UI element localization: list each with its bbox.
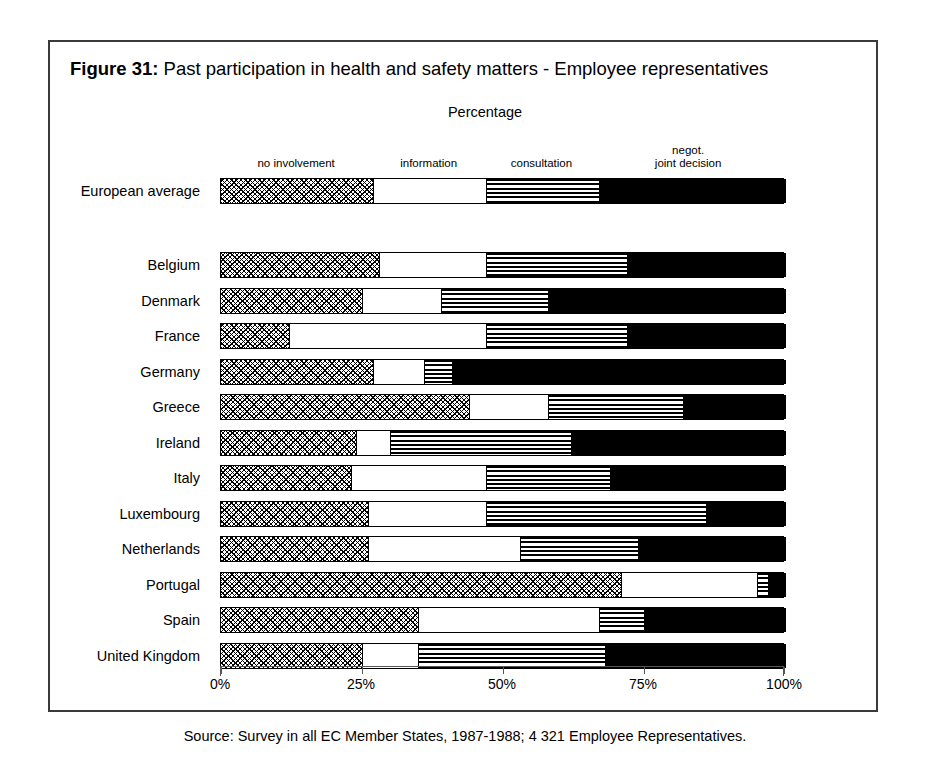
bar-segment-information (621, 573, 757, 597)
legend-item-label: consultation (511, 157, 572, 170)
segment-divider (768, 573, 769, 597)
bar-segment-consultation (486, 502, 707, 526)
bar-row: Belgium (50, 252, 880, 278)
bar-segment-no-involvement (221, 395, 469, 419)
segment-divider (610, 466, 611, 490)
bar-segment-information (379, 253, 487, 277)
bar-row: Italy (50, 465, 880, 491)
bar-segment-negot-joint-decision (638, 537, 786, 561)
stacked-bar (220, 607, 784, 633)
bar-segment-no-involvement (221, 253, 379, 277)
bar-segment-negot-joint-decision (644, 608, 786, 632)
segment-divider (289, 324, 290, 348)
segment-divider (452, 360, 453, 384)
bar-row-label: Portugal (50, 572, 210, 598)
stacked-bar (220, 536, 784, 562)
axis-tick (503, 667, 504, 674)
stacked-bar (220, 359, 784, 385)
bar-segment-no-involvement (221, 644, 362, 668)
segment-divider (548, 289, 549, 313)
segment-divider (638, 537, 639, 561)
bar-row: Netherlands (50, 536, 880, 562)
stacked-bar (220, 465, 784, 491)
bar-segment-no-involvement (221, 502, 368, 526)
bar-segment-information (373, 179, 487, 203)
segment-divider (418, 608, 419, 632)
legend-item-label: information (400, 157, 457, 170)
bar-segment-negot-joint-decision (452, 360, 786, 384)
bar-segment-consultation (486, 324, 628, 348)
segment-divider (469, 395, 470, 419)
bar-segment-information (373, 360, 425, 384)
bar-segment-negot-joint-decision (627, 324, 786, 348)
segment-divider (486, 466, 487, 490)
segment-divider (605, 644, 606, 668)
legend-item-consultation: consultation (511, 157, 572, 170)
segment-divider (351, 466, 352, 490)
stacked-bar (220, 430, 784, 456)
bar-segment-consultation (486, 179, 600, 203)
bar-segment-no-involvement (221, 360, 373, 384)
bar-segment-information (469, 395, 549, 419)
bar-segment-negot-joint-decision (768, 573, 786, 597)
segment-divider (373, 360, 374, 384)
bar-segment-no-involvement (221, 289, 362, 313)
segment-divider (486, 253, 487, 277)
segment-divider (362, 289, 363, 313)
segment-divider (356, 431, 357, 455)
legend-item-label: no involvement (257, 157, 334, 170)
axis-tick (784, 667, 785, 674)
bar-row: Germany (50, 359, 880, 385)
bar-segment-no-involvement (221, 537, 368, 561)
x-axis (220, 666, 784, 676)
axis-tick-label: 25% (347, 676, 375, 692)
segment-divider (520, 537, 521, 561)
segment-divider (368, 537, 369, 561)
segment-divider (368, 502, 369, 526)
bar-row-label: Spain (50, 607, 210, 633)
bar-segment-information (351, 466, 487, 490)
stacked-bar (220, 394, 784, 420)
bar-row-label: Greece (50, 394, 210, 420)
segment-divider (683, 395, 684, 419)
bar-segment-negot-joint-decision (706, 502, 786, 526)
bar-segment-negot-joint-decision (571, 431, 786, 455)
bar-row: Portugal (50, 572, 880, 598)
bar-row: Spain (50, 607, 880, 633)
stacked-bar (220, 323, 784, 349)
stacked-bar (220, 288, 784, 314)
bar-row-label: Luxembourg (50, 501, 210, 527)
bar-segment-no-involvement (221, 431, 356, 455)
bar-segment-information (368, 502, 487, 526)
bar-segment-no-involvement (221, 324, 289, 348)
legend-item-negot-joint-decision: negot.joint decision (655, 144, 721, 170)
bar-row: Ireland (50, 430, 880, 456)
stacked-bar (220, 501, 784, 527)
bar-segment-no-involvement (221, 608, 418, 632)
x-axis-tick-labels: 0%25%50%75%100% (220, 676, 784, 696)
segment-divider (362, 644, 363, 668)
axis-caption: Percentage (50, 104, 880, 120)
segment-divider (424, 360, 425, 384)
axis-tick (644, 667, 645, 674)
bar-segment-consultation (486, 466, 611, 490)
segment-divider (644, 608, 645, 632)
bar-segment-consultation (548, 395, 684, 419)
bar-segment-consultation (418, 644, 605, 668)
bar-row-label: Ireland (50, 430, 210, 456)
bar-segment-consultation (441, 289, 549, 313)
axis-tick (362, 667, 363, 674)
page-title: Figure 31: Past participation in health … (70, 58, 870, 80)
bar-row-label: Belgium (50, 252, 210, 278)
axis-tick-label: 100% (766, 676, 802, 692)
chart-legend: no involvementinformationconsultationneg… (220, 136, 784, 170)
source-note: Source: Survey in all EC Member States, … (50, 728, 880, 744)
bar-row-label: Italy (50, 465, 210, 491)
bar-segment-consultation (486, 253, 628, 277)
figure-number: Figure 31: (70, 58, 158, 79)
axis-tick-label: 0% (210, 676, 230, 692)
bar-segment-consultation (599, 608, 645, 632)
bar-row: France (50, 323, 880, 349)
axis-tick-label: 75% (629, 676, 657, 692)
segment-divider (418, 644, 419, 668)
